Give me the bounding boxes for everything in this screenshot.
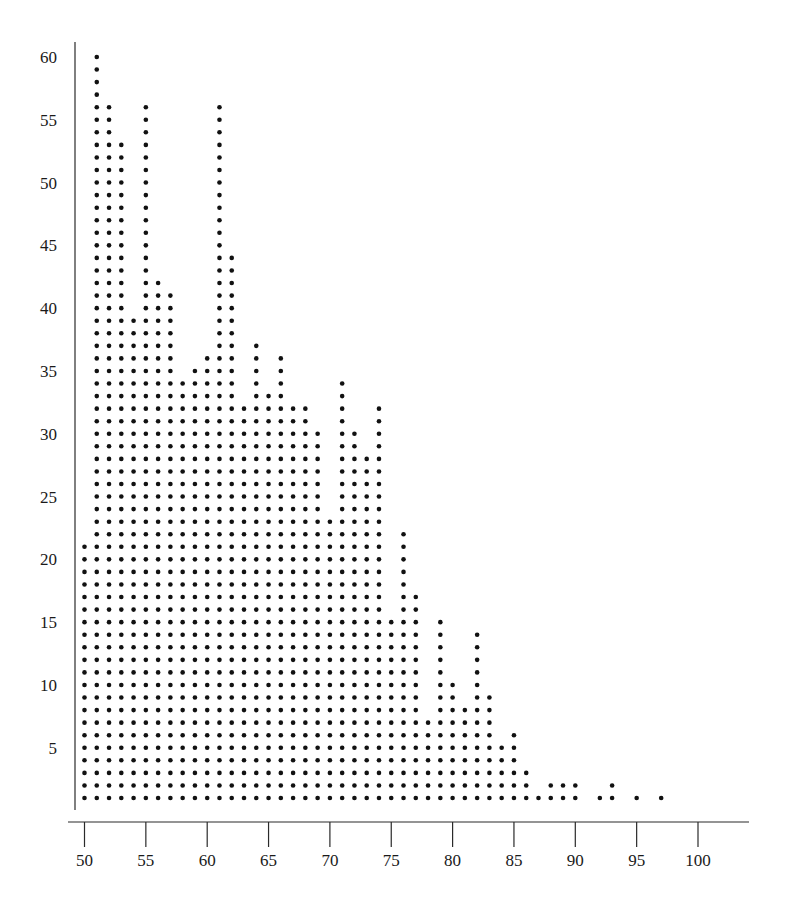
data-dot <box>426 758 431 763</box>
data-dot <box>266 570 271 575</box>
data-dot <box>352 532 357 537</box>
data-dot <box>94 218 99 223</box>
data-dot <box>377 406 382 411</box>
data-dot <box>94 771 99 776</box>
data-dot <box>413 783 418 788</box>
data-dot <box>229 469 234 474</box>
data-dot <box>144 394 149 399</box>
data-dot <box>119 683 124 688</box>
data-dot <box>119 218 124 223</box>
data-dot <box>254 796 259 801</box>
data-dot <box>94 331 99 336</box>
data-dot <box>119 595 124 600</box>
data-dot <box>107 620 112 625</box>
data-dot <box>229 318 234 323</box>
data-dot <box>279 607 284 612</box>
data-dot <box>413 645 418 650</box>
data-dot <box>413 595 418 600</box>
data-dot <box>205 406 210 411</box>
data-dot <box>107 344 112 349</box>
data-dot <box>217 494 222 499</box>
data-dot <box>82 758 87 763</box>
data-dot <box>119 507 124 512</box>
data-dot <box>94 507 99 512</box>
data-dot <box>119 758 124 763</box>
data-dot <box>279 708 284 713</box>
data-dot <box>450 695 455 700</box>
data-dot <box>168 406 173 411</box>
data-dot <box>279 658 284 663</box>
data-dot <box>328 532 333 537</box>
data-dot <box>364 645 369 650</box>
data-dot <box>180 733 185 738</box>
data-dot <box>156 293 161 298</box>
data-dot <box>156 796 161 801</box>
data-dot <box>279 532 284 537</box>
data-dot <box>401 708 406 713</box>
data-dot <box>364 595 369 600</box>
data-dot <box>254 607 259 612</box>
data-dot <box>364 733 369 738</box>
data-dot <box>401 645 406 650</box>
data-dot <box>352 796 357 801</box>
data-dot <box>144 293 149 298</box>
data-dot <box>377 557 382 562</box>
data-dot <box>156 394 161 399</box>
data-dot <box>144 494 149 499</box>
data-dot <box>94 720 99 725</box>
data-dot <box>254 620 259 625</box>
data-dot <box>107 658 112 663</box>
x-tick-label: 55 <box>137 851 154 870</box>
data-dot <box>156 381 161 386</box>
data-dot <box>94 67 99 72</box>
data-dot <box>193 406 198 411</box>
data-dot <box>499 758 504 763</box>
data-dot <box>315 482 320 487</box>
data-dot <box>291 683 296 688</box>
data-dot <box>524 783 529 788</box>
data-dot <box>340 670 345 675</box>
data-dot <box>254 758 259 763</box>
data-dot <box>303 645 308 650</box>
data-dot <box>340 771 345 776</box>
data-dot <box>377 545 382 550</box>
data-dot <box>291 645 296 650</box>
data-dot <box>131 469 136 474</box>
x-tick-label: 95 <box>628 851 645 870</box>
data-dot <box>377 745 382 750</box>
data-dot <box>144 205 149 210</box>
data-dot <box>512 771 517 776</box>
data-dot <box>340 683 345 688</box>
data-dot <box>315 532 320 537</box>
data-dot <box>217 645 222 650</box>
data-dot <box>82 595 87 600</box>
data-dot <box>168 683 173 688</box>
data-dot <box>413 607 418 612</box>
data-dot <box>168 369 173 374</box>
data-dot <box>94 745 99 750</box>
data-dot <box>291 519 296 524</box>
data-dot <box>340 607 345 612</box>
data-dot <box>315 582 320 587</box>
data-dot <box>377 670 382 675</box>
data-dot <box>131 620 136 625</box>
data-dot <box>156 469 161 474</box>
data-dot <box>266 607 271 612</box>
data-dot <box>217 193 222 198</box>
data-dot <box>156 771 161 776</box>
data-dot <box>266 532 271 537</box>
data-dot <box>107 331 112 336</box>
data-dot <box>180 469 185 474</box>
data-dot <box>487 695 492 700</box>
data-dot <box>94 268 99 273</box>
data-dot <box>94 155 99 160</box>
data-dot <box>229 394 234 399</box>
data-dot <box>291 570 296 575</box>
data-dot <box>156 344 161 349</box>
data-dot <box>144 708 149 713</box>
data-dot <box>279 595 284 600</box>
data-dot <box>82 632 87 637</box>
data-dot <box>168 771 173 776</box>
data-dot <box>352 457 357 462</box>
data-dot <box>94 205 99 210</box>
